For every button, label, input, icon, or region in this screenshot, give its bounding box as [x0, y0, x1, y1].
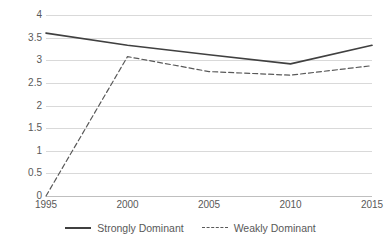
legend-item-weakly-dominant[interactable]: Weakly Dominant — [202, 222, 316, 234]
series-layer — [46, 15, 372, 196]
axis-baseline — [46, 196, 372, 197]
legend: Strongly Dominant Weakly Dominant — [0, 219, 381, 237]
legend-label: Strongly Dominant — [97, 222, 183, 234]
x-axis-tick-label: 2015 — [345, 199, 388, 211]
series-line-weakly-dominant — [46, 57, 372, 196]
x-axis-tick-label: 2000 — [101, 199, 155, 211]
legend-line-dashed-icon — [202, 223, 228, 233]
y-axis-tick-label: 3.5 — [6, 33, 42, 43]
plot-area — [46, 15, 372, 196]
y-axis-tick-label: 1.5 — [6, 123, 42, 133]
legend-label: Weakly Dominant — [234, 222, 316, 234]
y-axis-tick-label: 1 — [6, 146, 42, 156]
x-axis: 1995 2000 2005 2010 2015 — [46, 199, 372, 213]
series-line-strongly-dominant — [46, 33, 372, 64]
y-axis-tick-label: 4 — [6, 10, 42, 20]
x-axis-tick-label: 1995 — [19, 199, 73, 211]
x-axis-tick-label: 2005 — [182, 199, 236, 211]
y-axis-tick-label: 2.5 — [6, 78, 42, 88]
y-axis-tick-label: 2 — [6, 101, 42, 111]
y-axis: 4 3.5 3 2.5 2 1.5 1 0.5 0 — [0, 15, 42, 196]
y-axis-tick-label: 3 — [6, 55, 42, 65]
legend-item-strongly-dominant[interactable]: Strongly Dominant — [65, 222, 183, 234]
legend-line-solid-icon — [65, 223, 91, 233]
x-axis-tick-label: 2010 — [264, 199, 318, 211]
y-axis-tick-label: 0.5 — [6, 168, 42, 178]
